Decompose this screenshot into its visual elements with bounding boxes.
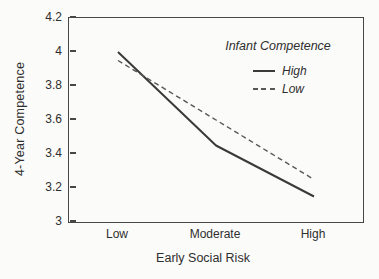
y-tick-label: 3.2 bbox=[4, 180, 62, 194]
legend-solid-line-swatch bbox=[253, 70, 275, 72]
legend-title: Infant Competence bbox=[197, 39, 359, 53]
legend-dashed-line-swatch bbox=[253, 88, 275, 90]
y-tick-mark bbox=[70, 50, 76, 52]
x-category-label: Low bbox=[72, 227, 162, 241]
y-tick-mark bbox=[70, 220, 76, 222]
y-tick-label: 3 bbox=[4, 214, 62, 228]
legend-label-high: High bbox=[282, 64, 307, 78]
y-tick-mark bbox=[70, 152, 76, 154]
y-tick-label: 3.6 bbox=[4, 112, 62, 126]
y-tick-mark bbox=[70, 84, 76, 86]
legend-item-low: Low bbox=[253, 82, 304, 96]
legend-item-high: High bbox=[253, 64, 307, 78]
series-line-low bbox=[118, 61, 314, 180]
y-tick-label: 4.2 bbox=[4, 10, 62, 24]
y-tick-mark bbox=[70, 186, 76, 188]
legend-label-low: Low bbox=[282, 82, 304, 96]
y-tick-mark bbox=[70, 118, 76, 120]
y-tick-label: 3.8 bbox=[4, 78, 62, 92]
x-category-label: Moderate bbox=[170, 227, 260, 241]
x-axis-label: Early Social Risk bbox=[156, 251, 250, 265]
y-tick-label: 4 bbox=[4, 44, 62, 58]
line-chart-figure: 4-Year Competence Infant Competence High… bbox=[0, 0, 379, 279]
y-tick-mark bbox=[70, 16, 76, 18]
x-category-label: High bbox=[268, 227, 358, 241]
y-tick-label: 3.4 bbox=[4, 146, 62, 160]
